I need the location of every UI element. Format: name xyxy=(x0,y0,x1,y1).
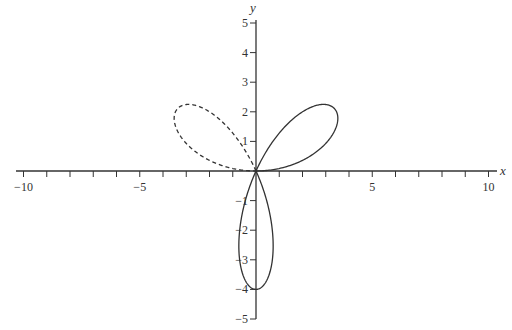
polar-rose-plot: −10−551054321−1−2−3−4−5 x y xyxy=(0,0,512,330)
y-tick-label: −2 xyxy=(235,223,248,237)
x-tick-label: −10 xyxy=(14,180,33,194)
y-tick-label: 1 xyxy=(242,134,248,148)
y-tick-label: −4 xyxy=(235,282,248,296)
x-axis-label: x xyxy=(499,163,506,178)
y-tick-label: 5 xyxy=(242,16,248,30)
y-tick-label: 3 xyxy=(242,75,248,89)
y-tick-label: 4 xyxy=(242,46,248,60)
right-petal-solid xyxy=(256,104,338,171)
y-tick-label: −5 xyxy=(235,312,248,326)
x-tick-label: 10 xyxy=(483,180,495,194)
y-tick-label: 2 xyxy=(242,105,248,119)
x-tick-label: 5 xyxy=(369,180,375,194)
y-tick-label: −3 xyxy=(235,253,248,267)
x-tick-label: −5 xyxy=(133,180,146,194)
y-axis-label: y xyxy=(248,0,256,15)
